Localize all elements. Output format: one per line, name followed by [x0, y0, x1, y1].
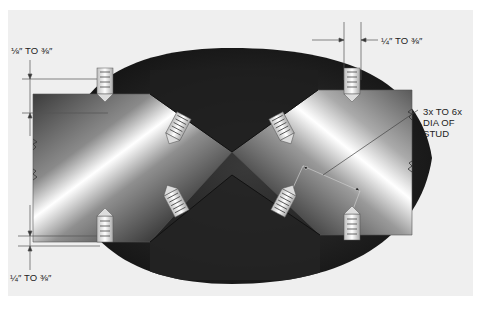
bottom-left-spacing-label: ¼″ TO ⅜″ — [10, 272, 52, 283]
top-right-spacing-label: ¼″ TO ⅜″ — [381, 35, 423, 46]
stud-spacing-label: 3x TO 6x DIA OF STUD — [423, 106, 462, 139]
stud-spacing-line1: 3x TO 6x — [423, 106, 462, 117]
weld-stud-diagram — [0, 0, 484, 313]
top-left-spacing-label: ⅛″ TO ⅜″ — [11, 45, 53, 56]
stud-spacing-line2: DIA OF — [423, 117, 462, 128]
stud-spacing-line3: STUD — [423, 128, 462, 139]
